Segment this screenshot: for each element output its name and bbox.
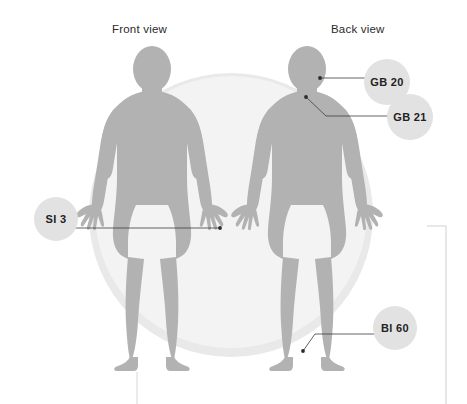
callout-label-bl60: Bl 60 — [381, 322, 409, 334]
callout-label-si3: SI 3 — [46, 213, 67, 225]
callout-badge-si3[interactable]: SI 3 — [34, 197, 78, 241]
point-marker-gb20 — [318, 76, 322, 80]
callout-label-gb21: GB 21 — [393, 111, 426, 123]
point-marker-bl60 — [301, 349, 305, 353]
leader-line-bl60 — [303, 334, 382, 351]
point-marker-gb21 — [304, 95, 308, 99]
bracket-right — [427, 226, 446, 404]
callout-badge-bl60[interactable]: Bl 60 — [373, 306, 417, 350]
callout-label-gb20: GB 20 — [370, 76, 403, 88]
back-view-title: Back view — [331, 23, 385, 35]
point-marker-si3 — [218, 226, 222, 230]
front-view-title: Front view — [112, 23, 167, 35]
acupuncture-point-diagram: Front view Back view GB 20 GB 21 SI 3 Bl… — [0, 0, 467, 404]
callout-badge-gb21[interactable]: GB 21 — [387, 94, 433, 140]
